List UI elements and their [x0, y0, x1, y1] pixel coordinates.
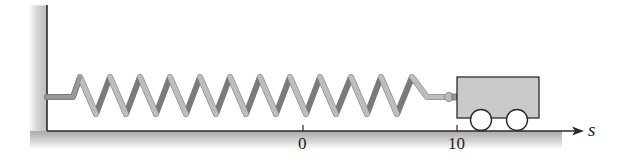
floor [30, 131, 562, 149]
wall [28, 4, 47, 147]
cart-wheel-left [471, 110, 492, 131]
spring [47, 77, 446, 114]
tick-label-10: 10 [448, 135, 465, 152]
spring-connector [445, 93, 458, 102]
cart [457, 77, 539, 131]
mass-spring-diagram [0, 0, 622, 162]
tick-label-0: 0 [298, 135, 307, 152]
axis-label-s: s [588, 120, 595, 139]
cart-wheel-right [507, 110, 528, 131]
